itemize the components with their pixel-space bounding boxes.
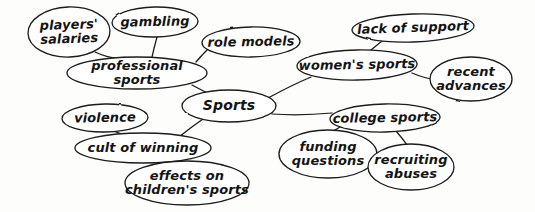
- node-bubble-funding-questions[interactable]: [279, 130, 377, 178]
- node-bubble-gambling[interactable]: [112, 6, 199, 37]
- node-bubble-recruiting-abuses[interactable]: [368, 144, 454, 190]
- edge-role-models-to-professional-sports: [196, 50, 207, 62]
- node-bubble-womens-sports[interactable]: [297, 49, 418, 81]
- node-bubble-lack-of-support[interactable]: [352, 12, 475, 44]
- node-bubble-sports[interactable]: [182, 90, 276, 122]
- node-bubble-effects-childrens-sports[interactable]: [125, 161, 249, 205]
- node-bubble-professional-sports[interactable]: [67, 57, 207, 89]
- concept-map-graphics: [0, 0, 535, 212]
- edge-sports-to-cult-of-winning: [179, 119, 203, 137]
- node-bubble-cult-of-winning[interactable]: [75, 133, 211, 163]
- node-bubble-recent-advances[interactable]: [430, 57, 512, 101]
- node-bubble-role-models[interactable]: [202, 26, 301, 58]
- concept-map-canvas: players' salariesgamblingrole modelslack…: [0, 0, 535, 212]
- edge-sports-to-womens-sports: [268, 77, 311, 98]
- node-shapes-layer: [27, 6, 512, 205]
- node-bubble-college-sports[interactable]: [330, 103, 440, 133]
- edge-sports-to-college-sports: [272, 113, 332, 115]
- edge-womens-sports-to-recent-advances: [412, 73, 432, 79]
- edge-gambling-to-professional-sports: [152, 37, 157, 57]
- node-bubble-players-salaries[interactable]: [27, 6, 111, 59]
- node-bubble-violence[interactable]: [62, 103, 148, 132]
